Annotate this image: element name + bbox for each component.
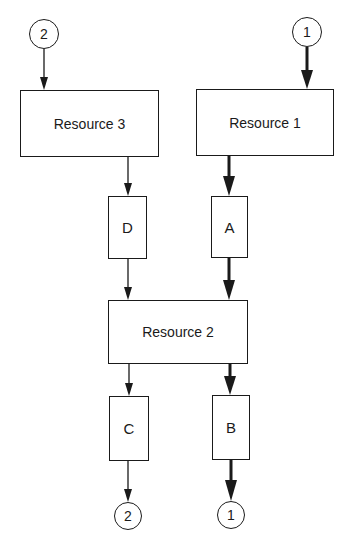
edge-resource-1-to-a	[223, 156, 235, 196]
resource-3-box: Resource 3	[20, 90, 159, 157]
edges-layer	[0, 0, 351, 548]
edge-resource-3-to-d	[124, 157, 132, 196]
activity-b-box: B	[212, 395, 250, 460]
connector-label: 2	[40, 26, 48, 42]
connector-2-top: 2	[29, 19, 59, 49]
activity-label: A	[224, 219, 234, 236]
connector-label: 1	[303, 24, 311, 40]
resource-label: Resource 3	[54, 116, 126, 132]
edge-a-to-resource-2	[223, 258, 235, 300]
activity-label: C	[124, 420, 135, 437]
connector-1-bottom: 1	[217, 501, 245, 529]
edge-1-to-resource-1	[301, 47, 313, 89]
activity-d-box: D	[108, 196, 147, 259]
edge-2-to-resource-3	[40, 49, 48, 90]
activity-label: B	[226, 419, 236, 436]
resource-label: Resource 1	[229, 115, 301, 131]
resource-1-box: Resource 1	[196, 89, 334, 156]
edge-d-to-resource-2	[124, 259, 132, 300]
edge-b-to-1	[225, 460, 237, 501]
activity-a-box: A	[211, 196, 248, 258]
edge-c-to-2	[124, 461, 132, 502]
edge-resource-2-to-c	[125, 364, 133, 396]
connector-label: 1	[227, 507, 235, 523]
resource-2-box: Resource 2	[108, 300, 248, 364]
connector-2-bottom: 2	[114, 502, 142, 530]
activity-label: D	[122, 219, 133, 236]
activity-c-box: C	[109, 396, 149, 461]
connector-1-top: 1	[292, 17, 322, 47]
edge-resource-2-to-b	[224, 364, 236, 395]
resource-label: Resource 2	[142, 324, 214, 340]
connector-label: 2	[124, 508, 132, 524]
